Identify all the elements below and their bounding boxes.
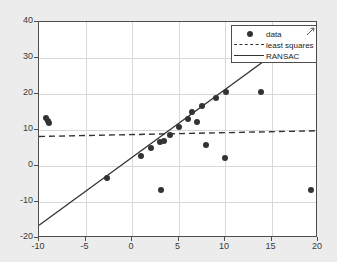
y-tick-label: -10 [3, 195, 33, 205]
x-tick-mark [317, 237, 318, 241]
data-point [158, 187, 164, 193]
figure-bottom-margin [0, 262, 337, 280]
data-point [104, 175, 110, 181]
y-tick-label: 0 [3, 159, 33, 169]
legend-label-least-squares: least squares [266, 41, 314, 50]
x-tick-mark [85, 237, 86, 241]
legend-item-ransac[interactable]: RANSAC [232, 50, 316, 62]
y-tick-label: 10 [3, 123, 33, 133]
data-point [46, 120, 52, 126]
data-point [199, 103, 205, 109]
y-tick-label: 40 [3, 15, 33, 25]
figure-canvas: -20-10010203040 -10-505101520 data least… [0, 0, 337, 280]
x-tick-label: -10 [23, 241, 53, 251]
x-tick-mark [131, 237, 132, 241]
x-tick-label: -5 [70, 241, 100, 251]
legend-label-data: data [266, 30, 282, 39]
legend-label-ransac: RANSAC [266, 52, 299, 61]
data-point [213, 95, 219, 101]
legend-solid-line-icon [232, 50, 266, 62]
data-point [223, 89, 229, 95]
legend-resize-handle-icon[interactable] [306, 27, 315, 36]
data-point [185, 116, 191, 122]
data-point [161, 138, 167, 144]
x-tick-label: 10 [209, 241, 239, 251]
y-tick-label: 20 [3, 87, 33, 97]
data-point [148, 145, 154, 151]
legend-box[interactable]: data least squares RANSAC [231, 25, 317, 63]
x-tick-mark [271, 237, 272, 241]
x-tick-mark [224, 237, 225, 241]
x-tick-mark [38, 237, 39, 241]
x-tick-label: 0 [116, 241, 146, 251]
x-tick-label: 20 [302, 241, 332, 251]
x-tick-mark [178, 237, 179, 241]
x-tick-label: 15 [256, 241, 286, 251]
y-tick-label: 30 [3, 51, 33, 61]
x-tick-label: 5 [163, 241, 193, 251]
y-tick-label: -20 [3, 231, 33, 241]
